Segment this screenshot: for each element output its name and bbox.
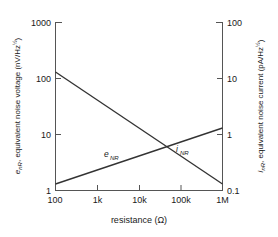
left-axis-title-text: , equivalent noise voltage (nV/Hz: [13, 45, 22, 162]
x-tick-label-1k: 1k: [93, 195, 103, 205]
right-tick-label-10: 10: [227, 74, 237, 84]
series-label-inr-symbol: i: [176, 144, 179, 154]
x-tick-label-100k: 100k: [171, 195, 191, 205]
left-tick-label-1000: 1000: [31, 18, 51, 28]
left-tick-label-10: 10: [41, 130, 51, 140]
right-tick-label-1: 1: [227, 130, 232, 140]
right-axis-ticks: [217, 23, 223, 191]
series-label-enr-subscript: NR: [110, 155, 119, 161]
right-axis-tick-labels: 100 10 1 0.1: [227, 18, 242, 196]
chart-canvas: 1000 100 10 1 100 10 1 0.1 100 1k 10k 10…: [0, 0, 278, 237]
left-tick-label-100: 100: [36, 74, 51, 84]
right-axis-title-closing: ): [256, 39, 265, 42]
right-axis-title: inR, equivalent noise current (pA/Hz½): [255, 39, 266, 172]
noise-vs-resistance-figure: 1000 100 10 1 100 10 1 0.1 100 1k 10k 10…: [0, 0, 278, 237]
right-axis-title-text: , equivalent noise current (pA/Hz: [256, 47, 265, 163]
x-tick-label-1M: 1M: [216, 195, 229, 205]
left-axis-tick-labels: 1000 100 10 1: [31, 18, 51, 196]
series-line-inr: [56, 72, 223, 184]
series-label-inr-subscript: NR: [180, 150, 189, 156]
x-axis-ticks: [98, 185, 182, 191]
left-axis-title: enR, equivalent noise voltage (nV/Hz½): [12, 37, 23, 174]
right-tick-label-100: 100: [227, 18, 242, 28]
series-label-enr: e NR: [104, 149, 119, 161]
series-line-enr: [56, 128, 223, 184]
series-label-enr-symbol: e: [104, 149, 109, 159]
x-axis-title: resistance (Ω): [111, 215, 167, 225]
svg-text:inR, equivalent noise current: inR, equivalent noise current (pA/Hz½): [255, 39, 266, 172]
svg-text:enR, equivalent noise voltage: enR, equivalent noise voltage (nV/Hz½): [12, 37, 23, 174]
left-axis-ticks: [56, 23, 62, 191]
x-tick-label-100: 100: [47, 195, 62, 205]
x-tick-label-10k: 10k: [132, 195, 147, 205]
left-axis-title-closing: ): [13, 37, 22, 40]
x-axis-tick-labels: 100 1k 10k 100k 1M: [47, 195, 228, 205]
right-tick-label-0p1: 0.1: [227, 186, 240, 196]
